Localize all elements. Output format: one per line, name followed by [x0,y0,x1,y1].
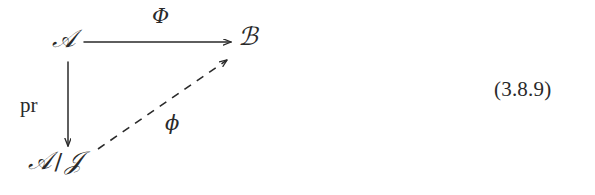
quotient-denominator: 𝒥 [65,146,83,175]
node-algebra-b: ℬ [238,24,259,49]
edge-label-phi-upper: Φ [152,6,169,27]
node-quotient-algebra: 𝒜/𝒥 [28,148,82,173]
node-algebra-a: 𝒜 [52,26,77,51]
quotient-slash: / [53,148,65,174]
commutative-diagram-figure: 𝒜 ℬ 𝒜/𝒥 Φ pr ϕ (3.8.9) [0,0,595,195]
arrow-phi-lower-dashed [98,60,227,149]
edge-label-pr: pr [20,95,38,116]
equation-number: (3.8.9) [494,79,551,100]
edge-label-phi-lower: ϕ [165,113,179,134]
quotient-numerator: 𝒜 [28,146,53,175]
